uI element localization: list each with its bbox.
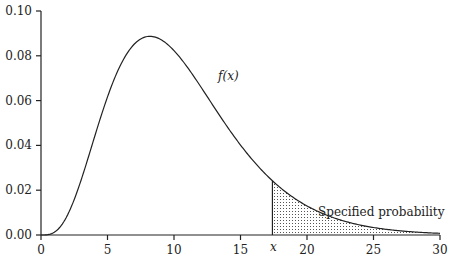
axes: 0.000.020.040.060.080.10051015202530	[5, 4, 447, 257]
x-tick-label: 10	[166, 243, 181, 257]
y-tick-label: 0.06	[5, 94, 32, 108]
x-tick-label: 0	[37, 243, 45, 257]
curve-label: f(x)	[217, 69, 239, 83]
y-tick-label: 0.02	[5, 183, 32, 197]
y-tick-label: 0.00	[5, 228, 32, 242]
x-tick-label: 30	[432, 243, 447, 257]
x-tick-label: 25	[366, 243, 381, 257]
x-tick-label: 20	[299, 243, 314, 257]
y-tick-label: 0.04	[5, 138, 32, 152]
x-marker-label: x	[270, 240, 277, 254]
y-tick-label: 0.08	[5, 49, 32, 63]
x-tick-label: 15	[233, 243, 248, 257]
region-label: Specified probability	[318, 205, 445, 219]
chart: 0.000.020.040.060.080.10051015202530 f(x…	[0, 0, 453, 263]
y-tick-label: 0.10	[5, 4, 32, 18]
x-tick-label: 5	[104, 243, 112, 257]
